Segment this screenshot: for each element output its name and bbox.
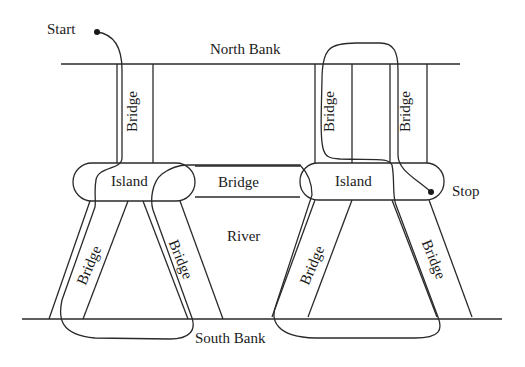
- bridge-north-right-a-label: Bridge: [322, 91, 337, 132]
- north-bank-label: North Bank: [210, 42, 280, 57]
- start-label: Start: [47, 22, 75, 37]
- island-right: [300, 163, 444, 200]
- island-left-label: Island: [111, 174, 148, 189]
- bridge-north-right-b-label: Bridge: [398, 91, 413, 132]
- island-right-label: Island: [335, 174, 372, 189]
- south-bank-label: South Bank: [195, 331, 265, 346]
- bridge-north-left-label: Bridge: [125, 91, 140, 132]
- river-label: River: [227, 229, 260, 244]
- stop-label: Stop: [452, 184, 480, 199]
- start-dot: [94, 29, 100, 35]
- stop-dot: [428, 189, 434, 195]
- bridge-middle-label: Bridge: [218, 175, 259, 190]
